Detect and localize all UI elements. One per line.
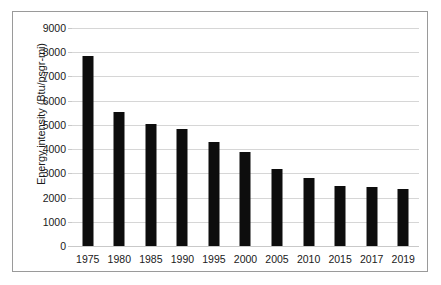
bar bbox=[240, 152, 251, 246]
gridline bbox=[72, 246, 419, 247]
bar bbox=[82, 56, 93, 246]
bar bbox=[366, 187, 377, 246]
bar-group: 1995 bbox=[198, 28, 230, 246]
bar-group: 1975 bbox=[72, 28, 104, 246]
x-axis-tick-label: 1995 bbox=[202, 253, 225, 265]
y-axis-tick-label: 1000 bbox=[43, 216, 66, 228]
chart-figure: Energy intensity (Btu/psgr-mi) 900080007… bbox=[12, 11, 428, 272]
x-axis-tick-label: 1980 bbox=[108, 253, 131, 265]
x-axis-tick-label: 2005 bbox=[265, 253, 288, 265]
bar-group: 2017 bbox=[356, 28, 388, 246]
bar bbox=[208, 142, 219, 246]
bar-group: 2015 bbox=[324, 28, 356, 246]
y-axis-tick-label: 5000 bbox=[43, 119, 66, 131]
bar-group: 1985 bbox=[135, 28, 167, 246]
bar-group: 1990 bbox=[167, 28, 199, 246]
x-axis-tick-label: 1985 bbox=[139, 253, 162, 265]
y-axis-tick-label: 0 bbox=[60, 240, 66, 252]
bar bbox=[272, 169, 283, 246]
bar bbox=[335, 186, 346, 246]
bar bbox=[177, 129, 188, 246]
y-axis-tick-label: 4000 bbox=[43, 143, 66, 155]
bar-group: 2000 bbox=[230, 28, 262, 246]
bars-layer: 1975198019851990199520002005201020152017… bbox=[72, 28, 419, 246]
y-axis-tick-label: 2000 bbox=[43, 192, 66, 204]
y-axis-tick-label: 3000 bbox=[43, 167, 66, 179]
y-axis-tick-label: 8000 bbox=[43, 46, 66, 58]
y-axis-tick-label: 7000 bbox=[43, 70, 66, 82]
bar-group: 2010 bbox=[293, 28, 325, 246]
x-axis-tick-label: 2000 bbox=[234, 253, 257, 265]
x-axis-tick-label: 1975 bbox=[76, 253, 99, 265]
x-axis-tick-label: 2017 bbox=[360, 253, 383, 265]
bar bbox=[398, 189, 409, 246]
x-axis-tick-label: 2019 bbox=[392, 253, 415, 265]
plot-area: 9000800070006000500040003000200010000 19… bbox=[72, 28, 419, 246]
bar-group: 2019 bbox=[387, 28, 419, 246]
x-axis-tick-label: 2010 bbox=[297, 253, 320, 265]
x-axis-tick-label: 2015 bbox=[328, 253, 351, 265]
y-axis-tick-label: 9000 bbox=[43, 22, 66, 34]
y-axis-tickmark bbox=[68, 246, 72, 247]
y-axis-tick-label: 6000 bbox=[43, 95, 66, 107]
bar bbox=[114, 112, 125, 246]
bar-group: 2005 bbox=[261, 28, 293, 246]
bar bbox=[303, 178, 314, 246]
bar bbox=[145, 124, 156, 246]
bar-group: 1980 bbox=[104, 28, 136, 246]
x-axis-tick-label: 1990 bbox=[171, 253, 194, 265]
